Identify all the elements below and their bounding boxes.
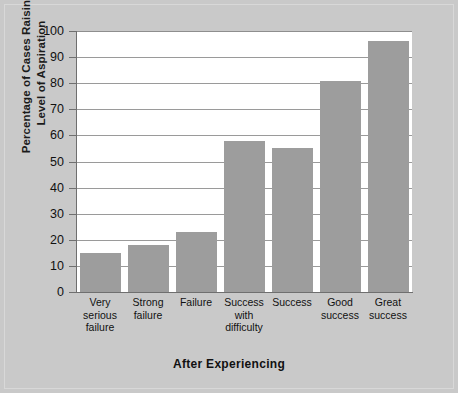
y-axis-tick-label: 100: [43, 24, 64, 38]
y-axis-tick-label: 50: [50, 155, 64, 169]
y-axis-tick-mark: [69, 292, 76, 293]
x-axis-tick-label-line: success: [316, 309, 364, 322]
bar-slot: [76, 31, 124, 292]
x-axis-tick-label: Goodsuccess: [316, 296, 364, 334]
bar-series: [76, 31, 412, 292]
x-axis-line: [76, 292, 413, 293]
y-axis-tick: 70: [0, 109, 76, 110]
y-axis-tick: 80: [0, 83, 76, 84]
y-axis-tick-label: 30: [50, 207, 64, 221]
chart-figure: Percentage of Cases Raising Level of Asp…: [0, 0, 458, 393]
x-axis-tick-label-line: Success: [268, 296, 316, 309]
y-axis-tick: 20: [0, 240, 76, 241]
y-axis-tick-label: 20: [50, 233, 64, 247]
x-axis-tick-label-line: Great: [364, 296, 412, 309]
x-axis-tick-label-line: Strong: [124, 296, 172, 309]
x-axis-tick-label: Success: [268, 296, 316, 334]
x-axis-tick-label: Failure: [172, 296, 220, 334]
bar-slot: [364, 31, 412, 292]
bar[interactable]: [224, 141, 265, 292]
y-axis-tick: 30: [0, 214, 76, 215]
x-axis-tick-label-line: Very: [76, 296, 124, 309]
y-axis-tick-mark: [69, 31, 76, 32]
y-axis-tick-mark: [69, 188, 76, 189]
y-axis-tick: 0: [0, 292, 76, 293]
bar-slot: [268, 31, 316, 292]
bar-slot: [172, 31, 220, 292]
x-axis-tick-label: Greatsuccess: [364, 296, 412, 334]
x-axis-tick-label-line: failure: [124, 309, 172, 322]
bar-slot: [316, 31, 364, 292]
x-axis-tick-label-line: failure: [76, 321, 124, 334]
x-axis-tick-label-line: with: [220, 309, 268, 322]
y-axis-tick-mark: [69, 109, 76, 110]
bar[interactable]: [176, 232, 217, 292]
x-axis-tick-label-line: success: [364, 309, 412, 322]
y-axis-tick: 10: [0, 266, 76, 267]
y-axis-tick-mark: [69, 266, 76, 267]
y-axis-tick-label: 40: [50, 181, 64, 195]
y-axis-tick-label: 80: [50, 76, 64, 90]
x-axis-tick-label-line: difficulty: [220, 321, 268, 334]
plot-area: [76, 31, 412, 292]
x-axis-tick-label-line: Failure: [172, 296, 220, 309]
y-axis-tick-label: 90: [50, 50, 64, 64]
y-axis-tick: 40: [0, 188, 76, 189]
x-axis-tick-label: Successwithdifficulty: [220, 296, 268, 334]
bar[interactable]: [272, 148, 313, 292]
y-axis-tick-mark: [69, 240, 76, 241]
y-axis-tick-label: 70: [50, 102, 64, 116]
y-axis-tick-mark: [69, 135, 76, 136]
y-axis-tick: 50: [0, 162, 76, 163]
x-axis-tick-labels: VeryseriousfailureStrongfailureFailureSu…: [76, 296, 412, 334]
y-axis-tick-mark: [69, 214, 76, 215]
y-axis-tick-mark: [69, 83, 76, 84]
bar[interactable]: [320, 81, 361, 292]
y-axis-tick-label: 0: [57, 285, 64, 299]
x-axis-tick-label-line: Success: [220, 296, 268, 309]
x-axis-title: After Experiencing: [0, 357, 458, 371]
x-axis-tick-label-line: serious: [76, 309, 124, 322]
bar[interactable]: [128, 245, 169, 292]
bar-slot: [124, 31, 172, 292]
y-axis-tick: 100: [0, 31, 76, 32]
y-axis-tick-label: 10: [50, 259, 64, 273]
y-axis-tick: 90: [0, 57, 76, 58]
bar[interactable]: [368, 41, 409, 292]
x-axis-tick-label: Strongfailure: [124, 296, 172, 334]
x-axis-tick-label: Veryseriousfailure: [76, 296, 124, 334]
y-axis-tick-mark: [69, 162, 76, 163]
y-axis-tick: 60: [0, 135, 76, 136]
y-axis-line: [76, 31, 77, 293]
y-axis-tick-mark: [69, 57, 76, 58]
x-axis-tick-label-line: Good: [316, 296, 364, 309]
bar[interactable]: [80, 253, 121, 292]
y-axis-ticks: 1009080706050403020100: [0, 31, 76, 292]
bar-slot: [220, 31, 268, 292]
y-axis-tick-label: 60: [50, 128, 64, 142]
